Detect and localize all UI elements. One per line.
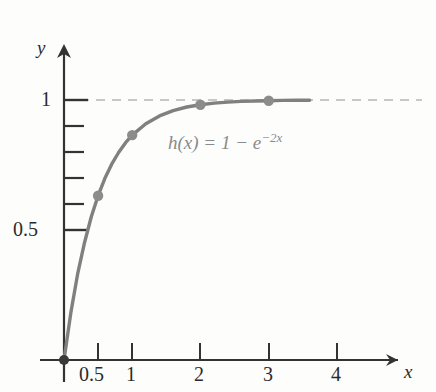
data-point-marker-origin xyxy=(59,355,69,365)
data-point-marker-1 xyxy=(127,130,137,140)
x-tick-label-4: 4 xyxy=(331,364,341,384)
y-axis-major-ticks xyxy=(64,100,88,230)
data-point-marker-0.5 xyxy=(93,191,103,201)
equation-annotation: h(x) = 1 − e−2x xyxy=(168,131,282,152)
x-axis-ticks xyxy=(98,343,337,360)
x-tick-label-0.5: 0.5 xyxy=(79,364,104,384)
y-tick-label-0.5: 0.5 xyxy=(13,219,38,239)
equation-base: h(x) = 1 − e xyxy=(168,132,261,153)
data-point-marker-2 xyxy=(195,100,205,110)
x-axis-name: x xyxy=(404,362,412,381)
y-axis-name: y xyxy=(37,38,45,57)
y-axis-minor-ticks xyxy=(64,126,84,204)
plot-svg xyxy=(0,0,436,392)
x-tick-label-2: 2 xyxy=(194,364,204,384)
data-point-marker-3 xyxy=(264,96,274,106)
x-tick-label-3: 3 xyxy=(263,364,273,384)
x-tick-label-1: 1 xyxy=(126,364,136,384)
y-tick-label-1: 1 xyxy=(41,89,51,109)
equation-exponent: −2x xyxy=(261,130,282,145)
figure-canvas: y x 1 0.5 0.5 1 2 3 4 h(x) = 1 − e−2x xyxy=(0,0,436,392)
